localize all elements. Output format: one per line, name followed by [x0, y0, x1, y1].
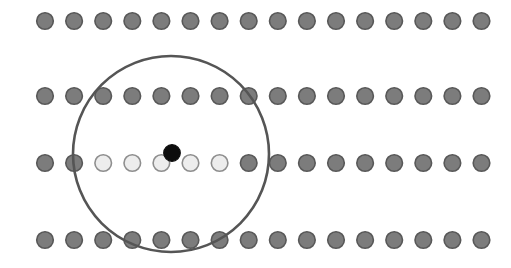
lattice-dot-r2-c4-gray: [124, 88, 141, 105]
lattice-dot-r4-c12-gray: [357, 232, 374, 249]
center-black-dot: [164, 145, 181, 162]
lattice-dot-r1-c7-gray: [211, 13, 228, 30]
lattice-dot-r1-c8-gray: [240, 13, 257, 30]
lattice-dot-r1-c10-gray: [299, 13, 316, 30]
lattice-dot-r1-c2-gray: [66, 13, 83, 30]
lattice-dot-r1-c13-gray: [386, 13, 403, 30]
lattice-dot-r1-c1-gray: [37, 13, 54, 30]
lattice-dot-r4-c9-gray: [270, 232, 287, 249]
lattice-dot-r4-c16-gray: [473, 232, 490, 249]
lattice-dot-r3-c3-light: [95, 155, 112, 172]
figure-root: [0, 0, 511, 268]
lattice-dot-r2-c1-gray: [37, 88, 54, 105]
lattice-dot-r3-c9-gray: [270, 155, 287, 172]
lattice-dot-r3-c10-gray: [299, 155, 316, 172]
lattice-dot-r1-c5-gray: [153, 13, 170, 30]
lattice-dot-r1-c16-gray: [473, 13, 490, 30]
lattice-dot-r3-c4-light: [124, 155, 141, 172]
lattice-dot-r2-c11-gray: [328, 88, 345, 105]
lattice-dot-r4-c14-gray: [415, 232, 432, 249]
lattice-dot-r4-c13-gray: [386, 232, 403, 249]
lattice-dot-r2-c16-gray: [473, 88, 490, 105]
lattice-dot-r3-c13-gray: [386, 155, 403, 172]
lattice-dot-r3-c8-gray: [240, 155, 257, 172]
lattice-dot-r4-c6-gray: [182, 232, 199, 249]
lattice-dot-r4-c10-gray: [299, 232, 316, 249]
background-rect: [0, 0, 511, 268]
lattice-dot-r1-c9-gray: [270, 13, 287, 30]
lattice-dot-r3-c7-light: [211, 155, 228, 172]
lattice-dot-r2-c9-gray: [270, 88, 287, 105]
lattice-dot-r4-c8-gray: [240, 232, 257, 249]
lattice-dot-r4-c3-gray: [95, 232, 112, 249]
lattice-dot-r2-c14-gray: [415, 88, 432, 105]
lattice-dot-r2-c10-gray: [299, 88, 316, 105]
lattice-dot-r3-c12-gray: [357, 155, 374, 172]
lattice-dot-r3-c11-gray: [328, 155, 345, 172]
lattice-dot-r2-c13-gray: [386, 88, 403, 105]
lattice-dot-r1-c14-gray: [415, 13, 432, 30]
lattice-dot-r3-c15-gray: [444, 155, 461, 172]
lattice-dot-r3-c14-gray: [415, 155, 432, 172]
lattice-dot-r4-c1-gray: [37, 232, 54, 249]
lattice-dot-r2-c15-gray: [444, 88, 461, 105]
marked-point-layer: [164, 145, 181, 162]
lattice-dot-r2-c6-gray: [182, 88, 199, 105]
lattice-dot-r1-c15-gray: [444, 13, 461, 30]
lattice-dot-r2-c5-gray: [153, 88, 170, 105]
lattice-dot-r3-c6-light: [182, 155, 199, 172]
lattice-dot-r2-c7-gray: [211, 88, 228, 105]
lattice-dot-r1-c3-gray: [95, 13, 112, 30]
lattice-dot-r1-c6-gray: [182, 13, 199, 30]
lattice-dot-r3-c16-gray: [473, 155, 490, 172]
lattice-dot-r1-c11-gray: [328, 13, 345, 30]
lattice-dot-r2-c2-gray: [66, 88, 83, 105]
lattice-dot-r1-c12-gray: [357, 13, 374, 30]
lattice-dot-r4-c11-gray: [328, 232, 345, 249]
dot-lattice-diagram: [0, 0, 511, 268]
lattice-dot-r2-c12-gray: [357, 88, 374, 105]
lattice-dot-r1-c4-gray: [124, 13, 141, 30]
lattice-dot-r4-c15-gray: [444, 232, 461, 249]
lattice-dot-r4-c2-gray: [66, 232, 83, 249]
lattice-dot-r3-c1-gray: [37, 155, 54, 172]
lattice-dot-r4-c5-gray: [153, 232, 170, 249]
